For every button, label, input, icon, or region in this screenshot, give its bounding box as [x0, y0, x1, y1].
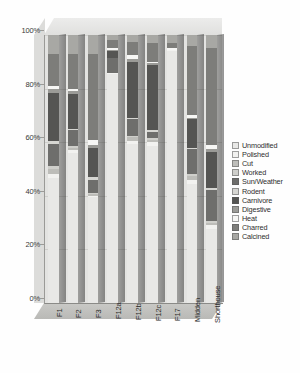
- bar-column-f12a[interactable]: [107, 35, 118, 303]
- bar-segment-sun-weather[interactable]: [206, 190, 217, 221]
- bar-segment-sun-weather[interactable]: [187, 149, 198, 174]
- legend-swatch-icon: [232, 197, 239, 204]
- bar-segment-charred[interactable]: [206, 48, 217, 144]
- bar-column-shorthouse[interactable]: [206, 35, 217, 303]
- y-axis-tick-mark: [35, 137, 44, 138]
- bar-column-f17[interactable]: [167, 35, 178, 303]
- bar-segment-sun-weather[interactable]: [68, 130, 79, 146]
- legend-item-polished[interactable]: Polished: [232, 150, 298, 159]
- y-axis-tick-mark: [35, 298, 44, 299]
- bar-segment-sun-weather[interactable]: [147, 132, 158, 139]
- bar-segment-calcined[interactable]: [147, 35, 158, 43]
- legend-label: Rodent: [242, 187, 265, 196]
- bar-segment-unmodified[interactable]: [107, 74, 118, 303]
- bar-segment-calcined[interactable]: [48, 35, 59, 54]
- bar-segment-carnivore[interactable]: [127, 62, 138, 118]
- legend-label: Sun/Weather: [242, 177, 283, 186]
- bar-segment-carnivore[interactable]: [107, 51, 118, 58]
- x-axis-tick-label: Shorthouse: [213, 285, 222, 322]
- bar-column-f2[interactable]: [68, 35, 79, 303]
- bar-column-f12b[interactable]: [127, 35, 138, 303]
- bar-column-f3[interactable]: [88, 35, 99, 303]
- legend: UnmodifiedPolishedCutWorkedSun/WeatherRo…: [232, 141, 298, 241]
- plot-area: [44, 35, 222, 303]
- bar-side-face: [78, 34, 85, 303]
- legend-label: Unmodified: [242, 141, 277, 150]
- bar-side-face: [138, 34, 145, 303]
- bar-segment-charred[interactable]: [187, 46, 198, 116]
- bar-stack: [147, 35, 158, 303]
- bar-side-face: [217, 34, 224, 303]
- legend-item-carnivore[interactable]: Carnivore: [232, 196, 298, 205]
- legend-item-unmodified[interactable]: Unmodified: [232, 141, 298, 150]
- bar-segment-unmodified[interactable]: [48, 178, 59, 303]
- legend-label: Heat: [242, 214, 257, 223]
- bar-segment-unmodified[interactable]: [127, 144, 138, 303]
- legend-label: Calcined: [242, 232, 269, 241]
- bar-segment-unmodified[interactable]: [167, 51, 178, 303]
- bar-segment-unmodified[interactable]: [88, 197, 99, 303]
- legend-item-cut[interactable]: Cut: [232, 159, 298, 168]
- legend-item-rodent[interactable]: Rodent: [232, 186, 298, 195]
- legend-swatch-icon: [232, 142, 239, 149]
- bar-segment-charred[interactable]: [147, 43, 158, 62]
- bar-segment-carnivore[interactable]: [88, 148, 99, 177]
- bar-segment-carnivore[interactable]: [147, 65, 158, 131]
- legend-item-heat[interactable]: Heat: [232, 214, 298, 223]
- x-axis-tick-label: F12b: [134, 303, 143, 320]
- bar-segment-calcined[interactable]: [206, 35, 217, 48]
- legend-swatch-icon: [232, 188, 239, 195]
- legend-swatch-icon: [232, 224, 239, 231]
- bar-segment-sun-weather[interactable]: [107, 58, 118, 73]
- bar-segment-charred[interactable]: [127, 42, 138, 55]
- bar-segment-calcined[interactable]: [68, 35, 79, 54]
- bar-column-midden[interactable]: [187, 35, 198, 303]
- bar-segment-unmodified[interactable]: [187, 184, 198, 303]
- bar-segment-calcined[interactable]: [167, 35, 178, 43]
- bar-segment-charred[interactable]: [107, 40, 118, 48]
- bar-segment-unmodified[interactable]: [147, 146, 158, 303]
- chart-figure: 100%80%60%40%20%0% F1F2F3F12aF12bF12cF17…: [0, 0, 300, 373]
- bar-segment-carnivore[interactable]: [206, 152, 217, 188]
- bar-side-face: [98, 34, 105, 303]
- legend-label: Polished: [242, 150, 269, 159]
- bar-segment-calcined[interactable]: [88, 35, 99, 54]
- bar-side-face: [158, 34, 165, 303]
- legend-swatch-icon: [232, 151, 239, 158]
- bar-side-face: [59, 34, 66, 303]
- bar-segment-sun-weather[interactable]: [48, 144, 59, 167]
- x-axis-tick-label: F12c: [154, 304, 163, 320]
- bar-side-face: [118, 34, 125, 303]
- bar-segment-sun-weather[interactable]: [127, 119, 138, 135]
- plot-top-deck: [44, 18, 222, 35]
- bar-column-f12c[interactable]: [147, 35, 158, 303]
- bar-segment-sun-weather[interactable]: [88, 180, 99, 193]
- bar-segment-charred[interactable]: [68, 54, 79, 89]
- bar-segment-carnivore[interactable]: [68, 94, 79, 129]
- legend-item-sun-weather[interactable]: Sun/Weather: [232, 177, 298, 186]
- y-axis-tick-mark: [35, 30, 44, 31]
- bar-segment-carnivore[interactable]: [187, 119, 198, 147]
- legend-item-charred[interactable]: Charred: [232, 223, 298, 232]
- legend-swatch-icon: [232, 160, 239, 167]
- legend-item-calcined[interactable]: Calcined: [232, 232, 298, 241]
- legend-item-worked[interactable]: Worked: [232, 168, 298, 177]
- bar-segment-charred[interactable]: [48, 54, 59, 86]
- x-axis-tick-label: F3: [94, 310, 103, 319]
- bar-column-f1[interactable]: [48, 35, 59, 303]
- bar-segment-calcined[interactable]: [127, 35, 138, 42]
- x-axis-tick-label: F12a: [114, 302, 123, 319]
- bar-stack: [88, 35, 99, 303]
- x-axis-tick-label: F1: [55, 308, 64, 317]
- x-axis-tick-label: Midden: [193, 298, 202, 322]
- legend-swatch-icon: [232, 206, 239, 213]
- legend-swatch-icon: [232, 169, 239, 176]
- legend-label: Digestive: [242, 205, 271, 214]
- bar-segment-unmodified[interactable]: [68, 153, 79, 303]
- legend-label: Carnivore: [242, 196, 272, 205]
- bar-side-face: [197, 34, 204, 303]
- legend-item-digestive[interactable]: Digestive: [232, 205, 298, 214]
- bar-segment-charred[interactable]: [88, 54, 99, 140]
- bar-segment-carnivore[interactable]: [48, 93, 59, 141]
- bar-segment-calcined[interactable]: [187, 35, 198, 46]
